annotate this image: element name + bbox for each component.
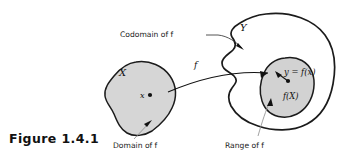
- figure-caption: Figure 1.4.1: [9, 131, 99, 146]
- figure-container: X x Y f y = f(x) f(X) Codomain of f Doma…: [0, 0, 339, 158]
- codomain-annotation: Codomain of f: [120, 30, 174, 39]
- image-point-label: y = f(x): [283, 67, 315, 77]
- map-label: f: [193, 60, 199, 70]
- domain-point-marker: [148, 93, 152, 97]
- range-set-label: f(X): [282, 91, 299, 101]
- domain-annotation: Domain of f: [113, 141, 158, 150]
- domain-point-label: x: [140, 91, 145, 100]
- range-annotation: Range of f: [225, 141, 264, 150]
- domain-set-label: X: [118, 67, 127, 78]
